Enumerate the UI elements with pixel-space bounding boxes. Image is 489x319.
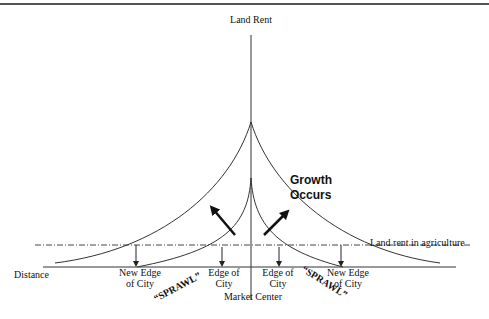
outer-bid-rent-curve-left [55,122,251,263]
left-edge-line1: Edge of [208,267,240,278]
market-center-label: Market Center [224,291,283,302]
y-axis-label: Land Rent [230,14,272,25]
left-new-edge-line2: of City [126,278,154,289]
growth-label-line2: Occurs [290,188,332,202]
x-axis-label: Distance [14,269,50,280]
growth-label-line1: Growth [290,173,332,187]
left-new-edge-line1: New Edge [119,267,161,278]
left-edge-line2: City [215,278,232,289]
right-edge-line2: City [269,278,286,289]
land-rent-diagram: Land Rent Distance Growth Occurs Land re… [0,0,489,319]
inner-bid-rent-curve-left [137,178,251,267]
right-new-edge-line1: New Edge [327,267,369,278]
agriculture-label: Land rent in agriculture [370,237,465,248]
growth-arrow-right [264,213,286,235]
growth-arrow-left [213,209,235,235]
right-edge-line1: Edge of [262,267,294,278]
